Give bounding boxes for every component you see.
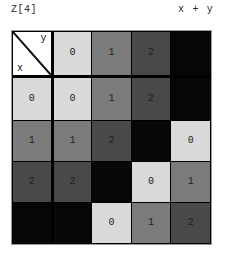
column-header-label: 3: [171, 48, 210, 58]
table-cell[interactable]: 1: [52, 121, 92, 162]
row-header-label: 2: [13, 177, 51, 187]
table-cell[interactable]: 2: [52, 162, 92, 203]
table-cell[interactable]: 3: [171, 76, 211, 121]
column-header-cell[interactable]: 0: [52, 32, 92, 77]
table-row: 11230: [13, 121, 211, 162]
table-cell[interactable]: 3: [131, 121, 171, 162]
row-header-cell[interactable]: 1: [13, 121, 53, 162]
row-header-label: 1: [13, 136, 51, 146]
table-row: 33012: [13, 203, 211, 244]
column-header-cell[interactable]: 1: [92, 32, 132, 77]
table-header-row: yx0123: [13, 32, 211, 77]
table-cell-value: 1: [132, 218, 171, 228]
table-cell-value: 0: [171, 136, 210, 146]
table-cell-value: 1: [92, 94, 131, 104]
column-header-cell[interactable]: 2: [131, 32, 171, 77]
row-header-label: 0: [13, 94, 51, 104]
column-header-cell[interactable]: 3: [171, 32, 211, 77]
table-cell-value: 3: [171, 94, 210, 104]
column-header-label: 1: [92, 48, 131, 58]
operation-label: x + y: [178, 4, 214, 15]
table-cell-value: 0: [92, 218, 131, 228]
table-cell-value: 0: [54, 94, 92, 104]
column-header-label: 2: [132, 48, 171, 58]
table-cell-value: 2: [132, 94, 171, 104]
table-cell[interactable]: 1: [131, 203, 171, 244]
row-header-label: 3: [13, 218, 51, 228]
table-cell-value: 1: [54, 136, 92, 146]
row-header-cell[interactable]: 0: [13, 76, 53, 121]
table-cell-value: 3: [92, 177, 131, 187]
table-cell[interactable]: 0: [171, 121, 211, 162]
cayley-table-container: yx012300123112302230133012: [11, 30, 212, 245]
table-cell[interactable]: 1: [171, 162, 211, 203]
row-header-cell[interactable]: 3: [13, 203, 53, 244]
table-cell-value: 3: [54, 218, 92, 228]
table-cell-value: 2: [54, 177, 92, 187]
table-cell[interactable]: 0: [131, 162, 171, 203]
diagram-titlebar: Z[4] x + y: [0, 0, 226, 26]
table-cell-value: 2: [92, 136, 131, 146]
row-header-cell[interactable]: 2: [13, 162, 53, 203]
column-axis-label: y: [41, 33, 47, 44]
table-cell-value: 2: [171, 218, 210, 228]
column-header-label: 0: [54, 48, 92, 58]
row-axis-label: x: [17, 63, 23, 74]
page-title: Z[4]: [11, 4, 37, 15]
table-cell[interactable]: 0: [52, 76, 92, 121]
table-cell[interactable]: 2: [131, 76, 171, 121]
table-cell-value: 3: [132, 136, 171, 146]
table-cell[interactable]: 0: [92, 203, 132, 244]
table-cell[interactable]: 1: [92, 76, 132, 121]
cayley-table: yx012300123112302230133012: [12, 31, 211, 244]
table-row: 00123: [13, 76, 211, 121]
table-cell[interactable]: 3: [92, 162, 132, 203]
axis-corner-cell: yx: [13, 32, 53, 77]
table-row: 22301: [13, 162, 211, 203]
table-cell[interactable]: 3: [52, 203, 92, 244]
table-cell[interactable]: 2: [171, 203, 211, 244]
table-cell-value: 1: [171, 177, 210, 187]
table-cell-value: 0: [132, 177, 171, 187]
table-cell[interactable]: 2: [92, 121, 132, 162]
